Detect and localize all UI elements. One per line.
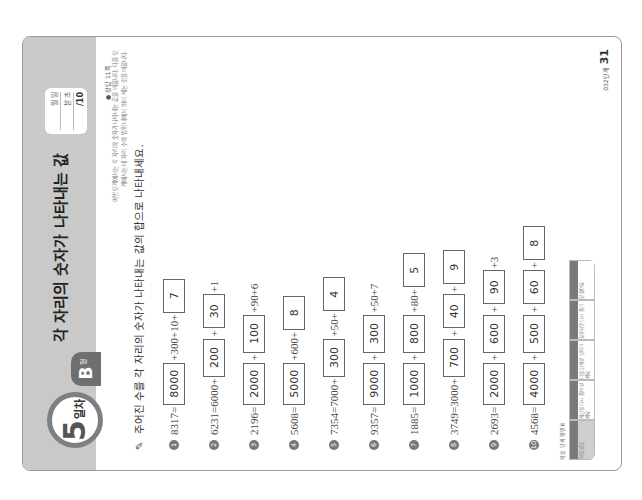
answer-box[interactable]: 40: [443, 294, 465, 328]
problem-number: 5: [329, 440, 339, 450]
expression-text: +50+: [328, 313, 340, 336]
answer-box[interactable]: 500: [523, 315, 545, 353]
problem-number: 6: [369, 440, 379, 450]
answer-box[interactable]: 2000: [243, 363, 265, 405]
answer-box[interactable]: 4: [323, 277, 345, 311]
problem-number: 8: [449, 440, 459, 450]
footer-cell: 계산을 다시 풀어 보세요: [569, 380, 595, 420]
expression-text: 6231=6000+: [208, 379, 220, 435]
expression-text: 2693=: [488, 407, 500, 435]
problem-number: 10: [529, 440, 539, 450]
answer-box[interactable]: 9: [443, 250, 465, 284]
answer-box[interactable]: 4000: [523, 363, 545, 405]
type-letter: B: [76, 367, 96, 380]
expression-text: +: [248, 355, 260, 361]
expression-text: 2196=: [248, 407, 260, 435]
expression-text: 3749=3000+: [448, 379, 460, 435]
expression-text: +50+7: [368, 284, 380, 313]
answer-box[interactable]: 5: [403, 253, 425, 287]
answer-box[interactable]: 600: [483, 315, 505, 353]
instruction: ✎ 주어진 수를 각 자리의 숫자가 나타내는 값의 합으로 나타내세요.: [131, 144, 146, 450]
answer-box[interactable]: 300: [363, 315, 385, 353]
problem-row: 26231=6000+200+30+1: [203, 281, 225, 450]
answer-box[interactable]: 8: [283, 296, 305, 330]
type-tab: B 형: [71, 352, 101, 386]
expression-text: 9357=: [368, 407, 380, 435]
problem-row: 83749=3000+700+40+9: [443, 248, 465, 450]
expression-text: 5608=: [288, 407, 300, 435]
expression-text: +: [368, 355, 380, 361]
problem-row: 57354=7000+300+50+4: [323, 275, 345, 450]
answer-box[interactable]: 90: [483, 270, 505, 304]
answer-box[interactable]: 1000: [403, 363, 425, 405]
problem-number: 7: [409, 440, 419, 450]
expression-text: +: [528, 262, 540, 268]
intro-text: 이번 단계에서는 각 자리의 숫자가 나타내는 값을 배웁니다. 다음 단 계에…: [111, 50, 129, 270]
problem-number: 3: [249, 440, 259, 450]
page-number: 032단계31: [598, 49, 611, 91]
footer-cell: 실수하면 다시 풀기: [569, 300, 595, 340]
problem-row: 45608=5000+600+8: [283, 294, 305, 450]
score-date: 월 일: [48, 92, 61, 130]
problem-number: 4: [289, 440, 299, 450]
score-time: 분 초: [61, 92, 74, 130]
footer-cell: 다음 단계로 넘어가세요: [569, 340, 595, 380]
problem-row: 32196=2000+100+90+6: [243, 284, 265, 450]
expression-text: +300+10+: [168, 315, 180, 361]
expression-text: 7354=7000+: [328, 379, 340, 435]
expression-text: +: [408, 355, 420, 361]
answer-box[interactable]: 5000: [283, 363, 305, 405]
expression-text: 8317=: [168, 407, 180, 435]
answer-box[interactable]: 100: [243, 315, 265, 353]
score-total: /10: [74, 92, 86, 130]
expression-text: +: [528, 355, 540, 361]
expression-text: +90+6: [248, 284, 260, 313]
answer-box[interactable]: 800: [403, 315, 425, 353]
problem-number: 9: [489, 440, 499, 450]
problem-row: 18317=8000+300+10+7: [163, 277, 185, 450]
expression-text: +: [208, 330, 220, 336]
answer-box[interactable]: 30: [203, 294, 225, 328]
answer-box[interactable]: 8: [523, 226, 545, 260]
answer-box[interactable]: 7: [163, 279, 185, 313]
expression-text: +1: [208, 281, 220, 293]
expression-text: +: [448, 330, 460, 336]
problem-row: 92693=2000+600+90+3: [483, 257, 505, 450]
footer-cell: 잘 했어요: [569, 260, 595, 300]
footer-note: 학습 단계 확인표: [558, 422, 565, 460]
expression-text: +: [488, 355, 500, 361]
problem-row: 71885=1000+800+80+5: [403, 251, 425, 450]
expression-text: +: [528, 306, 540, 312]
page-title: 각 자리의 숫자가 나타내는 값: [49, 153, 70, 342]
type-suffix: 형: [78, 359, 88, 365]
day-number: 5: [60, 420, 90, 441]
footer-table: 학습 방법 계산을 다시 풀어 보세요 다음 단계로 넘어가세요 실수하면 다시…: [569, 260, 595, 460]
footer-cell: 학습 방법: [569, 420, 595, 460]
answer-box[interactable]: 200: [203, 339, 225, 377]
worksheet-page: 5 일차 B 형 각 자리의 숫자가 나타내는 값 월 일 분 초 /10 ● …: [22, 36, 622, 471]
answer-box[interactable]: 9000: [363, 363, 385, 405]
problem-row: 104568=4000+500+60+8: [523, 224, 545, 450]
day-badge: 5 일차: [47, 392, 103, 448]
problem-number: 1: [169, 440, 179, 450]
expression-text: +600+: [288, 332, 300, 361]
page-label: 032단계: [602, 67, 609, 90]
expression-text: +80+: [408, 289, 420, 312]
answer-box[interactable]: 700: [443, 339, 465, 377]
instruction-text: 주어진 수를 각 자리의 숫자가 나타내는 값의 합으로 나타내세요.: [133, 144, 145, 434]
expression-text: 1885=: [408, 407, 420, 435]
problem-row: 69357=9000+300+50+7: [363, 284, 385, 450]
answer-box[interactable]: 2000: [483, 363, 505, 405]
expression-text: +: [488, 306, 500, 312]
expression-text: +: [448, 286, 460, 292]
score-box: 월 일 분 초 /10: [45, 88, 87, 134]
intro-line-2: 계에서는 네 자리 수의 범위 내에서 뛰어 세는 것을 배웁니다.: [120, 50, 129, 270]
day-label: 일차: [71, 399, 87, 419]
problem-number: 2: [209, 440, 219, 450]
expression-text: +3: [488, 257, 500, 269]
intro-line-1: 이번 단계에서는 각 자리의 숫자가 나타내는 값을 배웁니다. 다음 단: [111, 50, 120, 270]
answer-box[interactable]: 60: [523, 270, 545, 304]
answer-box[interactable]: 300: [323, 339, 345, 377]
answer-box[interactable]: 8000: [163, 363, 185, 405]
page-number-value: 31: [598, 49, 611, 64]
